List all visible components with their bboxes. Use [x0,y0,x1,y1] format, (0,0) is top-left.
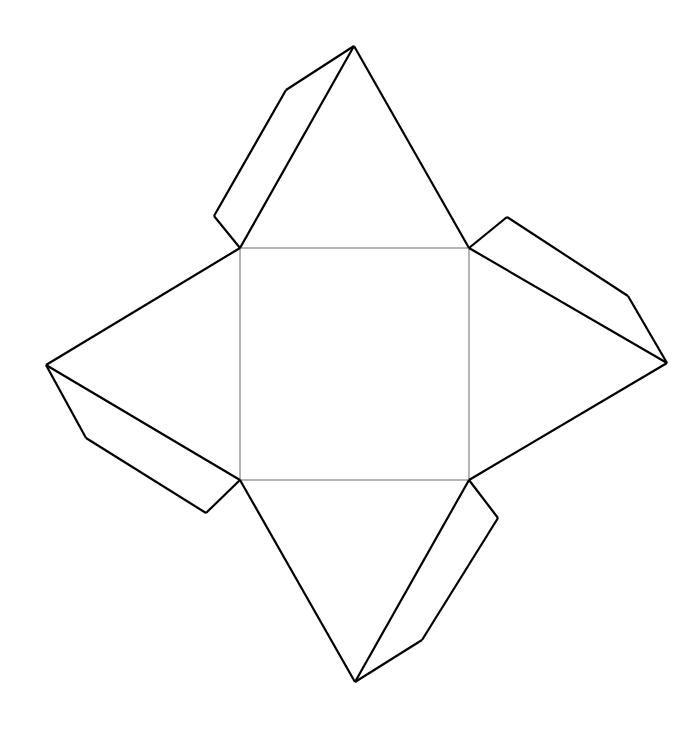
pyramid-net-figure [0,0,696,730]
drawing-canvas [0,0,696,730]
base-square-fill [240,248,469,480]
